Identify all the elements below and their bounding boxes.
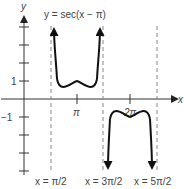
y-tick-label-1: 1 — [11, 76, 17, 87]
lower-branch-curve-right — [150, 119, 152, 168]
asymptote-label-2: x = 3π/2 — [85, 176, 123, 187]
upper-branch-curve-right — [97, 29, 100, 79]
sec-graph: y x 1 −1 π 2π y = sec(x − π) x = π/2 x =… — [0, 0, 184, 189]
asymptote-label-1: x = π/2 — [35, 176, 67, 187]
asymptote-label-3: x = 5π/2 — [134, 176, 172, 187]
upper-branch-curve-main — [57, 79, 97, 87]
x-axis-label: x — [177, 94, 184, 105]
function-title: y = sec(x − π) — [44, 9, 106, 20]
y-axis-label: y — [20, 1, 27, 12]
x-tick-label-pi: π — [73, 107, 80, 118]
upper-branch-curve — [54, 29, 57, 79]
lower-branch-curve-left — [108, 119, 110, 168]
y-tick-label-neg1: −1 — [1, 112, 13, 123]
